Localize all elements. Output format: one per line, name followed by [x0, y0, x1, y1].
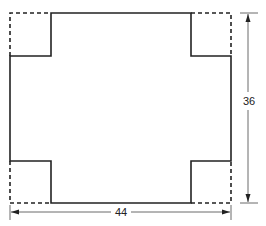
- removed-corners: [10, 13, 231, 203]
- cut-outline: [10, 13, 231, 203]
- box-net-diagram: 36 44: [0, 0, 266, 226]
- arrow-down-icon: [246, 194, 251, 202]
- arrow-up-icon: [246, 14, 251, 22]
- corner-bottom-right-dashed: [191, 161, 231, 203]
- arrow-right-icon: [222, 210, 230, 215]
- corner-top-right-dashed: [191, 13, 231, 56]
- height-dimension: 36: [240, 13, 258, 203]
- width-label: 44: [115, 206, 127, 218]
- width-dimension: 44: [10, 205, 231, 220]
- arrow-left-icon: [11, 210, 19, 215]
- corner-bottom-left-dashed: [10, 161, 51, 203]
- corner-top-left-dashed: [10, 13, 51, 56]
- height-label: 36: [243, 95, 255, 107]
